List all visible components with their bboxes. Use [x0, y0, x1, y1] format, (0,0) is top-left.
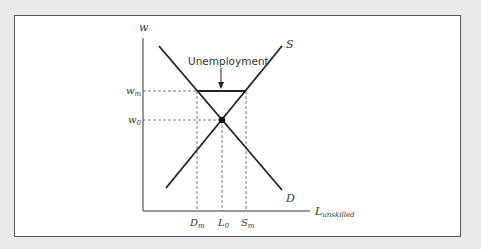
w0-label: w0	[128, 114, 142, 127]
x-axis-label: Lunskilled	[314, 205, 355, 219]
equilibrium-point	[219, 117, 225, 123]
y-axis-label: w	[139, 21, 149, 34]
sm-label: Sm	[241, 217, 255, 230]
demand-label: D	[285, 192, 295, 205]
supply-curve	[166, 46, 282, 188]
unemployment-annotation: Unemployment	[188, 55, 269, 67]
supply-label: S	[286, 38, 294, 51]
dm-label: Dm	[189, 217, 205, 230]
wm-label: wm	[126, 85, 142, 98]
arrow-down-icon	[218, 68, 224, 89]
l0-label: L0	[217, 217, 230, 230]
labor-market-diagram: w S D Unemployment wm w0 Dm L0 Sm Lunski…	[0, 0, 481, 249]
